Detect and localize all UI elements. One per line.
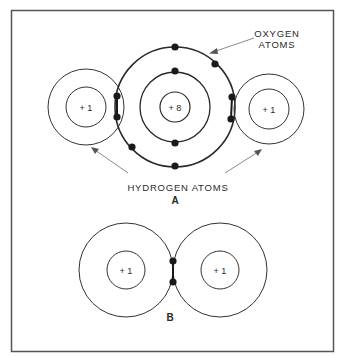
hydrogen-left-charge: + 1: [80, 103, 93, 113]
electron: [171, 43, 178, 50]
hydrogen-molecule-right: + 1: [173, 223, 267, 317]
figure-frame: [12, 11, 334, 352]
hydrogen-label: HYDROGEN ATOMS: [127, 182, 228, 193]
oxygen-atom: + 8: [113, 43, 235, 169]
diagram-canvas: + 1 + 8 + 1: [0, 0, 343, 356]
oxygen-label-line1: OXYGEN: [254, 28, 299, 39]
electron: [171, 162, 178, 169]
electron: [211, 60, 218, 67]
electron: [171, 139, 178, 146]
panel-a-label: A: [171, 195, 178, 206]
hydrogen-molecule-left: + 1: [79, 223, 173, 317]
hydrogen-arrow-left: [91, 147, 128, 173]
bond-line: [231, 97, 232, 119]
hydrogen-arrow-right: [225, 149, 262, 173]
hydrogen-b-left-charge: + 1: [120, 266, 133, 276]
electron: [171, 67, 178, 74]
hydrogen-atom-right: + 1: [234, 74, 304, 144]
hydrogen-atom-left: + 1: [48, 69, 124, 145]
electron: [128, 143, 135, 150]
panel-b-label: B: [166, 312, 173, 323]
oxygen-charge: + 8: [169, 103, 182, 113]
panel-a: + 1 + 8 + 1: [48, 28, 304, 206]
panel-b: + 1 + 1 B: [79, 223, 267, 323]
oxygen-label-line2: ATOMS: [259, 39, 296, 50]
oxygen-arrow: [209, 38, 254, 54]
hydrogen-b-right-charge: + 1: [214, 266, 227, 276]
hydrogen-right-charge: + 1: [263, 105, 276, 115]
